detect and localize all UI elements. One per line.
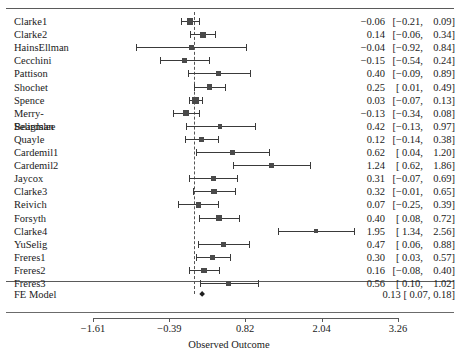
top-rule	[6, 8, 454, 9]
ci-cap-high	[218, 136, 219, 143]
effect-annotation: 0.03 [−0.07, 0.13]	[349, 94, 455, 107]
ci-high-value: 0.89]	[423, 67, 455, 80]
ci-cap-high	[269, 149, 270, 156]
effect-size-marker	[226, 281, 231, 286]
study-label: Pattison	[14, 67, 48, 80]
x-tick-label: −0.39	[139, 323, 199, 334]
effect-size-marker	[221, 242, 226, 247]
study-label: Cecchini	[14, 54, 51, 67]
ci-high-value: 0.57]	[423, 251, 455, 264]
effect-annotation: 0.40 [ 0.08, 0.72]	[349, 212, 455, 225]
bottom-rule	[6, 312, 454, 313]
summary-ci-low: [ 0.07,	[403, 289, 430, 300]
ci-cap-low	[185, 136, 186, 143]
estimate-value: −0.15	[349, 54, 385, 67]
ci-cap-low	[181, 18, 182, 25]
ci-cap-high	[249, 241, 250, 248]
ci-cap-high	[230, 254, 231, 261]
summary-label: FE Model	[14, 288, 56, 301]
ci-cap-low	[189, 267, 190, 274]
ci-low-value: [−0.34,	[385, 107, 423, 120]
x-tick	[245, 318, 246, 322]
forest-row: Cardemil10.62 [ 0.04, 1.20]	[0, 146, 458, 159]
study-label: Reivich	[14, 198, 47, 211]
forest-row: Freres10.30 [ 0.03, 0.57]	[0, 251, 458, 264]
ci-high-value: 0.08]	[423, 107, 455, 120]
estimate-value: 1.24	[349, 159, 385, 172]
effect-annotation: 0.32 [−0.01, 0.65]	[349, 185, 455, 198]
ci-high-value: 0.40]	[423, 264, 455, 277]
ci-high-value: 0.65]	[423, 185, 455, 198]
estimate-value: 0.40	[349, 67, 385, 80]
estimate-value: 0.32	[349, 185, 385, 198]
ci-cap-low	[198, 241, 199, 248]
effect-size-marker	[199, 137, 205, 143]
ci-low-value: [−0.14,	[385, 133, 423, 146]
effect-annotation: −0.13 [−0.34, 0.08]	[349, 107, 455, 120]
ci-low-value: [−0.13,	[385, 120, 423, 133]
estimate-value: 0.62	[349, 146, 385, 159]
ci-low-value: [−0.07,	[385, 172, 423, 185]
ci-high-value: 0.69]	[423, 172, 455, 185]
estimate-value: 0.31	[349, 172, 385, 185]
ci-cap-low	[199, 215, 200, 222]
ci-cap-low	[160, 57, 161, 64]
study-label: Clarke1	[14, 15, 47, 28]
x-tick	[169, 318, 170, 322]
estimate-value: 0.25	[349, 81, 385, 94]
ci-cap-high	[258, 280, 259, 287]
estimate-value: −0.06	[349, 15, 385, 28]
ci-cap-high	[255, 123, 256, 130]
estimate-value: −0.04	[349, 41, 385, 54]
ci-low-value: [−0.08,	[385, 264, 423, 277]
study-label: Spence	[14, 94, 44, 107]
forest-row: Forsyth0.40 [ 0.08, 0.72]	[0, 212, 458, 225]
study-label: Cardemil2	[14, 159, 58, 172]
effect-annotation: 0.16 [−0.08, 0.40]	[349, 264, 455, 277]
forest-row: Jaycox0.31 [−0.07, 0.69]	[0, 172, 458, 185]
effect-annotation: 0.12 [−0.14, 0.38]	[349, 133, 455, 146]
study-label: Freres2	[14, 264, 46, 277]
effect-size-marker	[183, 110, 189, 116]
forest-row: Merry-Beardslee−0.13 [−0.34, 0.08]	[0, 107, 458, 120]
study-label: Shochet	[14, 81, 48, 94]
ci-high-value: 0.88]	[423, 238, 455, 251]
effect-size-marker	[211, 176, 216, 181]
x-axis-title: Observed Outcome	[0, 339, 458, 350]
ci-low-value: [ 1.34,	[385, 225, 423, 238]
ci-cap-low	[186, 123, 187, 130]
forest-row: Cardemil21.24 [ 0.62, 1.86]	[0, 159, 458, 172]
forest-row: Freres20.16 [−0.08, 0.40]	[0, 264, 458, 277]
forest-row: Clarke41.95 [ 1.34, 2.56]	[0, 225, 458, 238]
ci-cap-high	[225, 84, 226, 91]
x-tick	[322, 318, 323, 322]
ci-cap-high	[199, 18, 200, 25]
forest-row: Seligman0.42 [−0.13, 0.97]	[0, 120, 458, 133]
ci-high-value: 2.56]	[423, 225, 455, 238]
estimate-value: 0.03	[349, 94, 385, 107]
study-label: YuSelig	[14, 238, 47, 251]
study-label: Seligman	[14, 120, 54, 133]
effect-annotation: 0.62 [ 0.04, 1.20]	[349, 146, 455, 159]
effect-size-marker	[207, 84, 213, 90]
effect-size-marker	[210, 255, 216, 261]
effect-size-marker	[314, 229, 319, 234]
ci-low-value: [ 0.62,	[385, 159, 423, 172]
ci-cap-high	[215, 31, 216, 38]
effect-size-marker	[218, 124, 223, 129]
study-label: Forsyth	[14, 212, 46, 225]
x-tick-label: 2.04	[292, 323, 352, 334]
ci-high-value: 0.72]	[423, 212, 455, 225]
effect-annotation: 0.25 [ 0.01, 0.49]	[349, 81, 455, 94]
ci-cap-low	[189, 175, 190, 182]
ci-cap-low	[136, 44, 137, 51]
study-label: Cardemil1	[14, 146, 58, 159]
ci-high-value: 1.86]	[423, 159, 455, 172]
estimate-value: 0.40	[349, 212, 385, 225]
ci-cap-low	[188, 70, 189, 77]
ci-high-value: 0.34]	[423, 28, 455, 41]
forest-row: Quayle0.12 [−0.14, 0.38]	[0, 133, 458, 146]
effect-size-marker	[182, 58, 187, 63]
ci-cap-low	[189, 97, 190, 104]
ci-low-value: [−0.01,	[385, 185, 423, 198]
